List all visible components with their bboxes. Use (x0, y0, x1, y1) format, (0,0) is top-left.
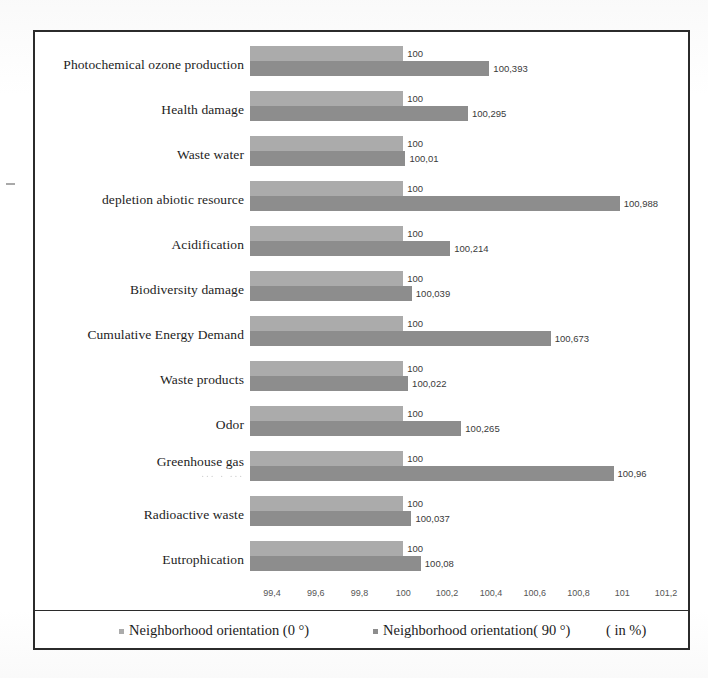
bar-series-0: 100 (250, 361, 403, 376)
bar-series-0: 100 (250, 46, 403, 61)
bar-series-0: 100 (250, 181, 403, 196)
category-label: depletion abiotic resource (102, 192, 244, 208)
bar-value-label: 100,039 (416, 288, 450, 299)
bar-series-1: 100,393 (250, 61, 489, 76)
legend-swatch-series-1 (373, 629, 378, 634)
bar-value-label: 100 (407, 93, 423, 104)
bar-series-1: 100,039 (250, 286, 412, 301)
bar-series-1: 100,022 (250, 376, 408, 391)
bar-group: Photochemical ozone production100100,393 (250, 43, 688, 87)
bar-value-label: 100 (407, 48, 423, 59)
bar-group: Radioactive waste100100,037 (250, 493, 688, 537)
legend-label-series-1: Neighborhood orientation( 90 °) (383, 622, 570, 639)
bar-value-label: 100,265 (465, 423, 499, 434)
category-label: Cumulative Energy Demand (87, 327, 244, 343)
legend-unit-label: ( in %) (606, 622, 646, 639)
bar-series-0: 100 (250, 496, 403, 511)
category-label: Waste products (160, 372, 244, 388)
bar-series-0: 100 (250, 136, 403, 151)
bar-group: Eutrophication100100,08 (250, 538, 688, 582)
x-axis-tick: 101 (615, 588, 630, 598)
chart-frame: Photochemical ozone production100100,393… (33, 30, 690, 650)
bar-series-0: 100 (250, 316, 403, 331)
bar-group: Biodiversity damage100100,039 (250, 268, 688, 312)
bar-series-0: 100 (250, 271, 403, 286)
bar-value-label: 100 (407, 498, 423, 509)
bar-series-1: 100,96 (250, 466, 614, 481)
x-axis: 99,499,699,8100100,2100,4100,6100,810110… (250, 588, 688, 610)
bar-series-0: 100 (250, 226, 403, 241)
bar-value-label: 100,393 (493, 63, 527, 74)
bar-series-0: 100 (250, 541, 403, 556)
bar-value-label: 100 (407, 543, 423, 554)
bar-group: Cumulative Energy Demand100100,673 (250, 313, 688, 357)
bar-value-label: 100,673 (555, 333, 589, 344)
category-label: Biodiversity damage (130, 282, 244, 298)
scan-edge-artifact (6, 183, 15, 185)
x-axis-tick: 99,8 (351, 588, 369, 598)
category-label: Radioactive waste (144, 507, 244, 523)
x-axis-tick: 99,6 (307, 588, 325, 598)
plot-area: Photochemical ozone production100100,393… (250, 40, 688, 580)
bar-series-1: 100,214 (250, 241, 450, 256)
category-label: Health damage (161, 102, 244, 118)
x-axis-tick: 101,2 (655, 588, 678, 598)
bar-group: Odor100100,265 (250, 403, 688, 447)
bar-value-label: 100,037 (415, 513, 449, 524)
legend-swatch-series-0 (119, 629, 124, 634)
bar-series-1: 100,265 (250, 421, 461, 436)
bar-group: Waste water100100,01 (250, 133, 688, 177)
bar-series-1: 100,295 (250, 106, 468, 121)
category-label: Acidification (171, 237, 244, 253)
bar-value-label: 100,988 (624, 198, 658, 209)
bar-series-1: 100,988 (250, 196, 620, 211)
bar-value-label: 100,01 (409, 153, 438, 164)
bar-value-label: 100,295 (472, 108, 506, 119)
x-axis-tick: 99,4 (263, 588, 281, 598)
bar-series-1: 100,037 (250, 511, 411, 526)
bar-value-label: 100,022 (412, 378, 446, 389)
x-axis-tick: 100,6 (523, 588, 546, 598)
legend-item-series-0[interactable]: Neighborhood orientation (0 °) (119, 622, 309, 639)
category-label: Photochemical ozone production (63, 57, 244, 73)
bar-group: Health damage100100,295 (250, 88, 688, 132)
plot-wrapper: Photochemical ozone production100100,393… (35, 32, 688, 648)
bar-value-label: 100 (407, 453, 423, 464)
x-axis-tick: 100,2 (436, 588, 459, 598)
x-axis-tick: 100 (396, 588, 411, 598)
bar-group: Acidification100100,214 (250, 223, 688, 267)
category-label: Eutrophication (162, 552, 244, 568)
bar-series-1: 100,08 (250, 556, 421, 571)
bar-value-label: 100 (407, 318, 423, 329)
category-label: Greenhouse gas... . ... (157, 454, 244, 479)
bar-series-1: 100,673 (250, 331, 551, 346)
bar-series-0: 100 (250, 451, 403, 466)
category-label: Waste water (177, 147, 244, 163)
bar-value-label: 100 (407, 363, 423, 374)
bar-group: Waste products100100,022 (250, 358, 688, 402)
bar-value-label: 100 (407, 408, 423, 419)
bar-value-label: 100,96 (618, 468, 647, 479)
x-axis-tick: 100,4 (480, 588, 503, 598)
bar-value-label: 100 (407, 228, 423, 239)
bar-series-1: 100,01 (250, 151, 405, 166)
bar-series-0: 100 (250, 91, 403, 106)
x-axis-tick: 100,8 (567, 588, 590, 598)
bar-group: depletion abiotic resource100100,988 (250, 178, 688, 222)
bar-value-label: 100,08 (425, 558, 454, 569)
category-label: Odor (216, 417, 244, 433)
legend-item-series-1[interactable]: Neighborhood orientation( 90 °) (373, 622, 570, 639)
bar-group: Greenhouse gas... . ...100100,96 (250, 448, 688, 492)
bar-value-label: 100 (407, 138, 423, 149)
bar-value-label: 100,214 (454, 243, 488, 254)
chart-legend: Neighborhood orientation (0 °) Neighborh… (35, 611, 688, 650)
bar-series-0: 100 (250, 406, 403, 421)
category-sublabel: ... . ... (157, 468, 244, 479)
bar-value-label: 100 (407, 183, 423, 194)
bar-value-label: 100 (407, 273, 423, 284)
legend-label-series-0: Neighborhood orientation (0 °) (129, 622, 309, 639)
